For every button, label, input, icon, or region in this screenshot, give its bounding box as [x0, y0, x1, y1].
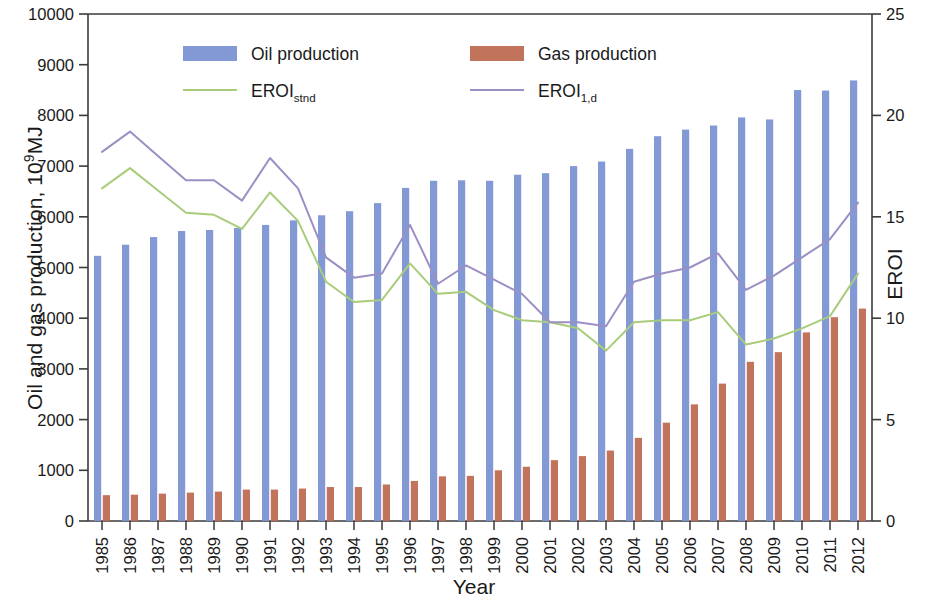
- bar-oil-production: [542, 173, 549, 521]
- legend-swatch-gas: [470, 46, 524, 61]
- bar-oil-production: [150, 237, 157, 521]
- y-axis-left-tick-label: 7000: [37, 157, 74, 175]
- y-axis-left-tick-label: 1000: [37, 461, 74, 479]
- chart-canvas: 0100020003000400050006000700080009000100…: [0, 0, 948, 602]
- x-axis-tick-label: 2002: [569, 537, 587, 574]
- bar-oil-production: [206, 230, 213, 521]
- bar-gas-production: [495, 470, 502, 521]
- legend-label-gas: Gas production: [538, 44, 657, 64]
- bar-gas-production: [551, 460, 558, 521]
- y-axis-right-tick-label: 20: [886, 106, 904, 124]
- x-axis-tick-label: 2001: [541, 537, 559, 574]
- bar-oil-production: [514, 175, 521, 521]
- x-axis-tick-label: 2009: [765, 537, 783, 574]
- bar-gas-production: [103, 495, 110, 521]
- bar-gas-production: [439, 476, 446, 521]
- bar-oil-production: [794, 90, 801, 521]
- x-axis-tick-label: 2012: [849, 537, 867, 574]
- bar-gas-production: [243, 490, 250, 521]
- bar-oil-production: [766, 119, 773, 521]
- y-axis-right-tick-label: 25: [886, 5, 904, 23]
- bar-oil-production: [290, 220, 297, 521]
- bar-oil-production: [262, 225, 269, 521]
- bar-oil-production: [598, 162, 605, 521]
- legend-swatch-oil: [183, 46, 237, 61]
- bar-oil-production: [234, 228, 241, 521]
- bar-oil-production: [486, 181, 493, 521]
- bar-gas-production: [803, 332, 810, 521]
- bar-gas-production: [411, 481, 418, 521]
- bar-oil-production: [430, 181, 437, 521]
- legend-label-oil: Oil production: [251, 44, 359, 64]
- bar-gas-production: [859, 309, 866, 521]
- x-axis-tick-label: 2010: [793, 537, 811, 574]
- y-axis-left-tick-label: 2000: [37, 411, 74, 429]
- x-axis-tick-label: 1998: [457, 537, 475, 574]
- bar-oil-production: [346, 211, 353, 521]
- bar-gas-production: [299, 489, 306, 521]
- bar-gas-production: [215, 492, 222, 521]
- x-axis-tick-label: 1994: [345, 537, 363, 574]
- y-axis-left-tick-label: 8000: [37, 106, 74, 124]
- bar-gas-production: [747, 362, 754, 521]
- x-axis-tick-label: 1996: [401, 537, 419, 574]
- y-axis-left-tick-label: 5000: [37, 259, 74, 277]
- x-axis-tick-label: 2011: [821, 537, 839, 572]
- y-axis-left-tick-label: 9000: [37, 56, 74, 74]
- y-axis-left-tick-label: 10000: [28, 5, 74, 23]
- x-axis-tick-label: 1992: [289, 537, 307, 574]
- bar-oil-production: [682, 130, 689, 521]
- bar-gas-production: [691, 404, 698, 521]
- x-axis-tick-label: 2008: [737, 537, 755, 574]
- bar-gas-production: [579, 456, 586, 521]
- bar-oil-production: [94, 256, 101, 521]
- y-axis-right-tick-label: 10: [886, 309, 904, 327]
- bar-gas-production: [131, 495, 138, 521]
- bar-oil-production: [710, 126, 717, 521]
- bar-gas-production: [523, 467, 530, 521]
- bar-gas-production: [775, 352, 782, 521]
- y-axis-right-tick-label: 0: [886, 512, 895, 530]
- bar-gas-production: [271, 490, 278, 521]
- chart-figure: Oil and gas production, 109MJ EROI Year …: [0, 0, 948, 602]
- bar-gas-production: [355, 487, 362, 521]
- bar-oil-production: [654, 136, 661, 521]
- x-axis-tick-label: 2004: [625, 537, 643, 574]
- x-axis-tick-label: 2006: [681, 537, 699, 574]
- x-axis-tick-label: 1995: [373, 537, 391, 574]
- bar-gas-production: [831, 317, 838, 521]
- x-axis-tick-label: 2007: [709, 537, 727, 574]
- x-axis-tick-label: 1988: [177, 537, 195, 574]
- bar-gas-production: [187, 493, 194, 521]
- bar-gas-production: [467, 476, 474, 521]
- bar-oil-production: [850, 80, 857, 521]
- bar-oil-production: [122, 245, 129, 521]
- x-axis-tick-label: 1986: [121, 537, 139, 574]
- bar-gas-production: [159, 494, 166, 521]
- x-axis-tick-label: 1991: [261, 537, 279, 574]
- bar-gas-production: [663, 423, 670, 521]
- legend-label-1d: EROI1,d: [538, 81, 597, 104]
- x-axis-tick-label: 1985: [93, 537, 111, 574]
- x-axis-tick-label: 2003: [597, 537, 615, 574]
- y-axis-left-tick-label: 3000: [37, 360, 74, 378]
- y-axis-right-tick-label: 15: [886, 208, 904, 226]
- bar-oil-production: [178, 231, 185, 521]
- bar-gas-production: [635, 438, 642, 521]
- bar-oil-production: [738, 117, 745, 521]
- bar-oil-production: [570, 166, 577, 521]
- bar-oil-production: [458, 180, 465, 521]
- bar-oil-production: [626, 149, 633, 521]
- x-axis-tick-label: 1997: [429, 537, 447, 574]
- y-axis-left-tick-label: 6000: [37, 208, 74, 226]
- x-axis-tick-label: 1990: [233, 537, 251, 574]
- bar-oil-production: [822, 91, 829, 521]
- bar-oil-production: [374, 203, 381, 521]
- bar-oil-production: [318, 215, 325, 521]
- y-axis-right-tick-label: 5: [886, 411, 895, 429]
- x-axis-tick-label: 1993: [317, 537, 335, 574]
- x-axis-tick-label: 1987: [149, 537, 167, 574]
- x-axis-tick-label: 1999: [485, 537, 503, 574]
- bar-gas-production: [719, 384, 726, 521]
- x-axis-tick-label: 2000: [513, 537, 531, 574]
